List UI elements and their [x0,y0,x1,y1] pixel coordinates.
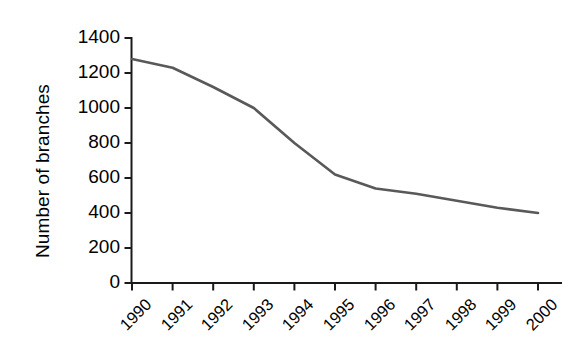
y-tick-label: 0 [8,271,120,293]
line-chart: Number of branches 020040060080010001200… [0,0,588,358]
y-axis [125,37,133,284]
y-tick-label: 400 [8,201,120,223]
y-tick-label: 1400 [8,26,120,48]
y-tick-label: 1000 [8,96,120,118]
y-tick-label: 1200 [8,61,120,83]
y-tick-label: 600 [8,166,120,188]
y-tick-label: 200 [8,236,120,258]
x-axis [132,283,563,291]
data-series-line [132,59,538,213]
x-tick-marks [132,283,538,291]
y-tick-label: 800 [8,131,120,153]
